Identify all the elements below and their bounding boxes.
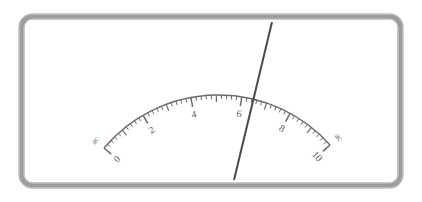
meter-canvas: 0246810acac bbox=[0, 0, 422, 202]
scale-tick-minor bbox=[196, 97, 197, 101]
analog-meter: 0246810acac bbox=[0, 0, 422, 202]
meter-face bbox=[26, 21, 396, 181]
